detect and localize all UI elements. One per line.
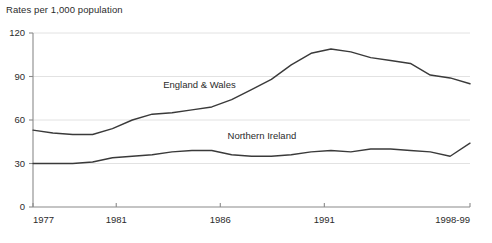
y-tick-label: 60 xyxy=(14,114,25,125)
series-line xyxy=(33,143,470,163)
x-tick-label: 1977 xyxy=(33,214,54,225)
y-tick-label: 30 xyxy=(14,158,25,169)
line-chart: Rates per 1,000 population 0306090120 19… xyxy=(0,0,492,243)
x-tick-label: 1998-99 xyxy=(435,214,470,225)
x-tick-label: 1991 xyxy=(314,214,335,225)
series-annotations-group: England & WalesNorthern Ireland xyxy=(163,79,296,141)
y-tick-marks-group xyxy=(29,33,33,207)
series-line xyxy=(33,49,470,135)
x-axis-tick-labels: 19771981198619911998-99 xyxy=(33,214,470,225)
y-axis-tick-labels: 0306090120 xyxy=(9,27,25,212)
chart-plot-area: 0306090120 19771981198619911998-99 Engla… xyxy=(0,0,492,243)
data-series-group xyxy=(33,49,470,164)
x-tick-label: 1981 xyxy=(106,214,127,225)
series-annotation-label: Northern Ireland xyxy=(228,130,297,141)
x-tick-marks-group xyxy=(33,203,470,207)
y-tick-label: 90 xyxy=(14,71,25,82)
gridlines-group xyxy=(33,33,470,164)
y-tick-label: 0 xyxy=(20,201,25,212)
series-annotation-label: England & Wales xyxy=(163,79,236,90)
x-tick-label: 1986 xyxy=(210,214,231,225)
y-tick-label: 120 xyxy=(9,27,25,38)
